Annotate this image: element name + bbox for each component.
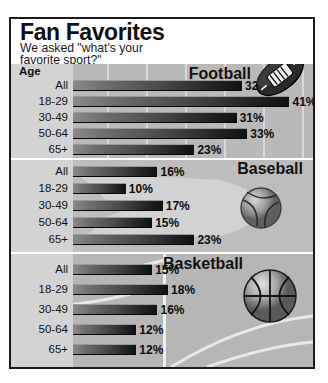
infographic-container: Fan Favorites We asked "what's your favo… [9,17,315,369]
row-label: 30-49 [39,199,68,211]
row-label: 18-29 [39,283,68,295]
bar-value-label: 12% [139,343,163,357]
row-label: 65+ [48,343,68,355]
bar [73,344,136,355]
row-label: All [55,79,68,91]
bar [73,166,157,177]
page-subtitle: We asked "what's your favorite sport?" [20,43,143,66]
bar-value-label: 31% [240,111,264,125]
bar-value-label: 23% [197,233,221,247]
bar-value-label: 17% [166,199,190,213]
bar [73,183,126,194]
label-gutter-baseball: All18-2930-4950-6465+ [11,160,73,252]
panel-baseball: All18-2930-4950-6465+ Baseball 16%10%17%… [11,160,313,252]
header: Fan Favorites We asked "what's your favo… [11,19,313,64]
row-label: All [55,165,68,177]
bar-value-label: 18% [171,283,195,297]
bar [73,234,194,245]
row-label: 50-64 [39,127,68,139]
row-label: 65+ [48,143,68,155]
bar-value-label: 12% [139,323,163,337]
row-label: 18-29 [39,182,68,194]
bar [73,217,152,228]
row-label: 50-64 [39,216,68,228]
panel-title-baseball: Baseball [237,160,303,178]
panel-football: Age All18-2930-4950-6465+ Football 32%41… [11,64,313,158]
bar-value-label: 16% [160,165,184,179]
basketball-icon [241,267,299,325]
bar-value-label: 15% [155,263,179,277]
panel-title-football: Football [189,65,251,83]
bar-value-label: 23% [197,143,221,157]
bar [73,200,163,211]
bar-value-label: 15% [155,216,179,230]
panel-basketball: All18-2930-4950-6465+ Basketball 15%18%1… [11,254,313,367]
baseball-icon [239,186,283,230]
bar [73,144,194,155]
bar [73,304,157,315]
bar [73,284,168,295]
bar [73,112,237,123]
row-label: 50-64 [39,323,68,335]
label-gutter-football: Age All18-2930-4950-6465+ [11,64,73,158]
football-icon [249,64,311,106]
row-label: All [55,263,68,275]
bar [73,264,152,275]
bar-value-label: 16% [160,303,184,317]
bar-value-label: 33% [250,127,274,141]
bar [73,128,247,139]
row-label: 65+ [48,233,68,245]
bar-value-label: 10% [129,182,153,196]
row-label: 30-49 [39,303,68,315]
age-column-header: Age [19,65,41,77]
row-label: 18-29 [39,95,68,107]
label-gutter-basketball: All18-2930-4950-6465+ [11,254,73,367]
row-label: 30-49 [39,111,68,123]
bar [73,324,136,335]
